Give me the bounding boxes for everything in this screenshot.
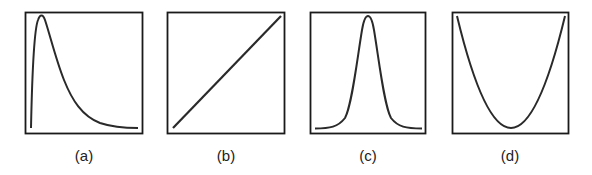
- panel-d-frame: [453, 13, 569, 134]
- panel-a-label: (a): [75, 147, 93, 164]
- panel-a-frame: [26, 13, 143, 134]
- panel-b: (b): [168, 13, 285, 165]
- panel-b-label: (b): [217, 147, 235, 164]
- panel-c-label: (c): [359, 147, 377, 164]
- panel-a: (a): [26, 13, 143, 165]
- figure: (a) (b) (c) (d): [0, 0, 592, 175]
- panel-c-frame: [311, 13, 426, 134]
- panel-d-label: (d): [501, 147, 519, 164]
- panel-d: (d): [453, 13, 569, 165]
- panel-c: (c): [311, 13, 426, 165]
